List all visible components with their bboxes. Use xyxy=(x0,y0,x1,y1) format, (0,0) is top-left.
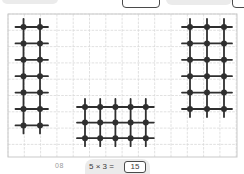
equation-text: 5 × 3 = xyxy=(89,162,114,171)
dot-array-5x3 xyxy=(77,99,154,146)
equation-pill: 5 × 3 = 15 xyxy=(85,159,150,174)
dot-grid-canvas xyxy=(0,0,244,174)
worksheet-screen: 08 5 × 3 = 15 xyxy=(0,0,244,174)
grid-lines xyxy=(8,14,237,157)
question-number-label: 08 xyxy=(55,162,64,169)
answer-input[interactable]: 15 xyxy=(124,161,146,173)
array-whiskers xyxy=(16,19,49,133)
array-whiskers xyxy=(182,19,232,117)
dot-array-2x7 xyxy=(16,19,49,133)
dot-array-3x6 xyxy=(182,19,232,117)
